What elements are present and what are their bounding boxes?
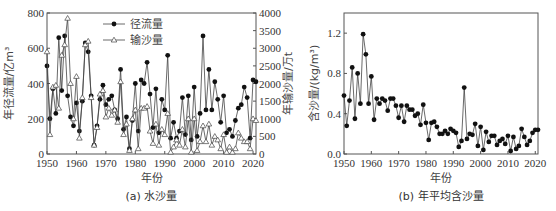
data-point-circle	[519, 126, 524, 131]
x-tick-label: 1980	[415, 157, 438, 169]
data-point-circle	[399, 103, 404, 108]
data-point-circle	[230, 134, 235, 139]
data-point-triangle	[121, 132, 127, 137]
y2-tick-label: 500	[259, 130, 276, 142]
panel-b-chart: 195019601970198019902000201020200.00.40.…	[307, 13, 547, 203]
y-tick-label: 0.8	[327, 67, 341, 79]
data-point-circle	[500, 136, 505, 141]
x-tick-label: 2000	[470, 157, 493, 169]
x-tick-label: 1980	[124, 157, 147, 169]
data-point-circle	[344, 123, 349, 128]
data-point-circle	[204, 108, 209, 113]
data-point-circle	[492, 133, 497, 138]
x-tick-label: 2010	[497, 157, 520, 169]
data-point-circle	[363, 52, 368, 57]
data-point-circle	[86, 49, 91, 54]
data-point-triangle	[68, 81, 74, 86]
data-point-circle	[212, 79, 217, 84]
x-tick-label: 2000	[183, 157, 206, 169]
data-point-triangle	[206, 121, 212, 126]
data-point-triangle	[236, 130, 242, 135]
data-point-circle	[402, 119, 407, 124]
data-point-triangle	[103, 114, 109, 119]
data-point-circle	[62, 34, 67, 39]
data-point-triangle	[183, 144, 189, 149]
data-point-circle	[65, 93, 70, 98]
data-point-triangle	[56, 105, 62, 110]
data-point-triangle	[80, 95, 86, 100]
data-point-circle	[484, 129, 489, 134]
data-point-circle	[396, 115, 401, 120]
data-point-circle	[410, 107, 415, 112]
data-point-triangle	[77, 135, 83, 140]
data-point-circle	[162, 108, 167, 113]
data-point-circle	[159, 97, 164, 102]
data-point-triangle	[47, 132, 53, 137]
data-point-circle	[404, 103, 409, 108]
data-point-circle	[227, 127, 232, 132]
y-tick-label: 0.4	[327, 108, 341, 120]
data-point-circle	[353, 116, 358, 121]
x-tick-label: 1970	[388, 157, 411, 169]
data-point-circle	[459, 139, 464, 144]
data-point-circle	[536, 127, 541, 132]
data-point-circle	[201, 34, 206, 39]
data-point-circle	[495, 143, 500, 148]
data-point-circle	[109, 93, 114, 98]
data-point-circle	[101, 83, 106, 88]
y2-axis-label: 年输沙量/万t	[281, 51, 295, 115]
data-point-triangle	[150, 141, 156, 146]
data-point-circle	[171, 120, 176, 125]
data-point-circle	[462, 85, 467, 90]
data-point-circle	[48, 116, 53, 121]
x-tick-label: 1960	[360, 157, 383, 169]
data-point-circle	[435, 124, 440, 129]
data-point-circle	[503, 142, 508, 147]
data-point-circle	[342, 93, 347, 98]
legend-marker-circle	[112, 22, 117, 27]
x-tick-label: 2020	[524, 157, 547, 169]
data-point-circle	[215, 97, 220, 102]
data-point-triangle	[212, 134, 218, 139]
data-point-triangle	[224, 149, 230, 154]
data-point-circle	[372, 117, 377, 122]
data-point-circle	[248, 136, 253, 141]
data-point-circle	[456, 145, 461, 150]
y-tick-label: 400	[28, 78, 45, 90]
data-point-circle	[350, 65, 355, 70]
data-point-circle	[124, 115, 129, 120]
data-point-circle	[432, 119, 437, 124]
data-point-triangle	[168, 149, 174, 154]
data-point-circle	[168, 136, 173, 141]
data-point-circle	[186, 93, 191, 98]
data-point-circle	[426, 138, 431, 143]
data-point-circle	[525, 143, 530, 148]
figure: 1950196019701980199020002010202002004006…	[0, 0, 556, 211]
data-point-triangle	[238, 135, 244, 140]
data-point-circle	[481, 148, 486, 153]
data-point-circle	[118, 67, 123, 72]
data-point-triangle	[197, 139, 203, 144]
data-point-triangle	[130, 116, 136, 121]
data-point-triangle	[177, 142, 183, 147]
data-point-circle	[418, 122, 423, 127]
data-point-circle	[355, 71, 360, 76]
x-tick-label: 1960	[65, 157, 88, 169]
data-point-circle	[486, 140, 491, 145]
x-tick-label: 1990	[442, 157, 465, 169]
data-point-circle	[374, 96, 379, 101]
panel-caption: (a) 水沙量	[126, 190, 178, 203]
data-point-circle	[133, 81, 138, 86]
data-point-triangle	[159, 127, 165, 132]
legend-item: 径流量	[103, 17, 163, 31]
data-point-circle	[473, 121, 478, 126]
legend-label: 径流量	[130, 17, 163, 31]
data-point-triangle	[162, 132, 168, 137]
data-point-circle	[218, 120, 223, 125]
x-tick-label: 2010	[213, 157, 236, 169]
data-point-circle	[209, 108, 214, 113]
data-point-circle	[527, 139, 532, 144]
panel-a-chart: 1950196019701980199020002010202002004006…	[2, 7, 295, 203]
data-point-triangle	[65, 15, 71, 20]
data-point-circle	[369, 74, 374, 79]
